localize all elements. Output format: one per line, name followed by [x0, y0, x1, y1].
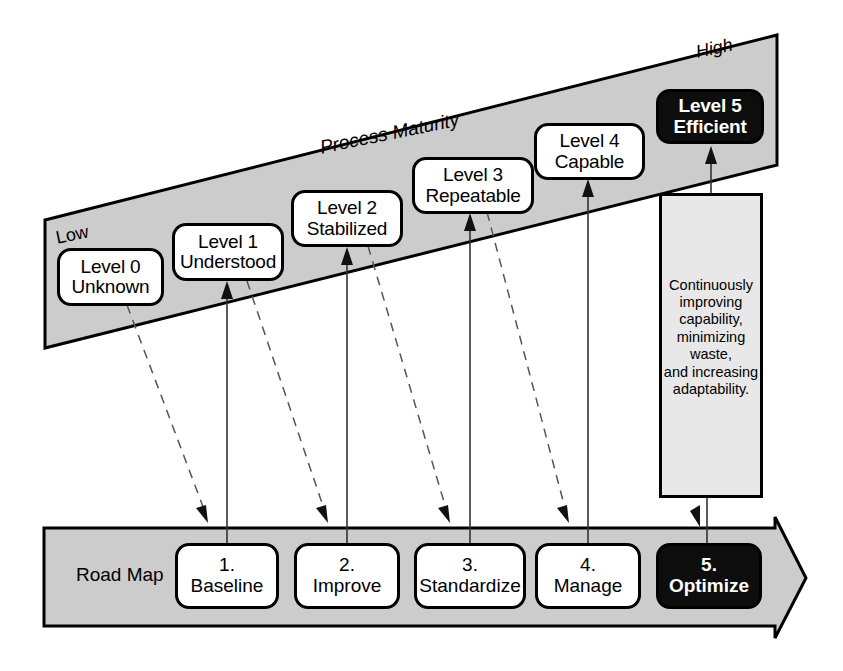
diagram-canvas: Low High Process Maturity Level 0 Unknow… — [0, 0, 843, 671]
maturity-node-level-1[interactable]: Level 1 Understood — [172, 223, 284, 281]
maturity-node-level-3-line1: Level 3 — [443, 165, 503, 185]
maturity-node-level-5-line2: Efficient — [673, 117, 746, 137]
callout-line-1: Continuously — [664, 277, 758, 294]
maturity-node-level-1-line1: Level 1 — [198, 232, 258, 252]
callout-line-7: adaptability. — [664, 381, 758, 398]
road-map-step-1-name: Baseline — [191, 576, 264, 597]
road-map-step-4-number: 4. — [580, 555, 596, 576]
road-map-step-5-name: Optimize — [669, 576, 749, 597]
road-map-step-3-number: 3. — [462, 555, 478, 576]
maturity-node-level-1-line2: Understood — [180, 252, 276, 272]
road-map-step-5[interactable]: 5. Optimize — [656, 543, 762, 609]
maturity-node-level-4[interactable]: Level 4 Capable — [534, 123, 645, 180]
dashed-connector-arrowheads — [196, 505, 569, 523]
road-map-step-5-number: 5. — [701, 555, 717, 576]
callout-line-4: minimizing — [664, 329, 758, 346]
road-map-step-2-number: 2. — [339, 555, 355, 576]
road-map-step-2-name: Improve — [313, 576, 382, 597]
callout-line-6: and increasing — [664, 364, 758, 381]
maturity-node-level-5[interactable]: Level 5 Efficient — [656, 89, 764, 144]
maturity-node-level-2[interactable]: Level 2 Stabilized — [291, 190, 403, 247]
maturity-node-level-4-line2: Capable — [555, 152, 624, 172]
callout-line-5: waste, — [664, 346, 758, 363]
maturity-node-level-2-line2: Stabilized — [307, 219, 387, 239]
road-map-step-2[interactable]: 2. Improve — [294, 543, 400, 609]
maturity-node-level-0-line2: Unknown — [72, 277, 150, 297]
maturity-node-level-2-line1: Level 2 — [317, 198, 377, 218]
road-map-step-3[interactable]: 3. Standardize — [414, 543, 526, 609]
callout-line-3: capability, — [664, 311, 758, 328]
callout-line-2: improving — [664, 294, 758, 311]
maturity-node-level-5-line1: Level 5 — [678, 96, 741, 116]
maturity-node-level-0[interactable]: Level 0 Unknown — [57, 248, 164, 306]
maturity-node-level-3[interactable]: Level 3 Repeatable — [412, 157, 534, 214]
road-map-label: Road Map — [76, 564, 164, 586]
maturity-node-level-0-line1: Level 0 — [81, 257, 141, 277]
maturity-node-level-3-line2: Repeatable — [425, 186, 520, 206]
road-map-step-1[interactable]: 1. Baseline — [175, 543, 279, 609]
callout-box: Continuously improving capability, minim… — [659, 193, 763, 498]
maturity-node-level-4-line1: Level 4 — [560, 131, 620, 151]
callout-text: Continuously improving capability, minim… — [662, 277, 760, 399]
road-map-step-1-number: 1. — [219, 555, 235, 576]
road-map-step-3-name: Standardize — [419, 576, 520, 597]
road-map-step-4[interactable]: 4. Manage — [535, 543, 641, 609]
road-map-step-4-name: Manage — [554, 576, 623, 597]
